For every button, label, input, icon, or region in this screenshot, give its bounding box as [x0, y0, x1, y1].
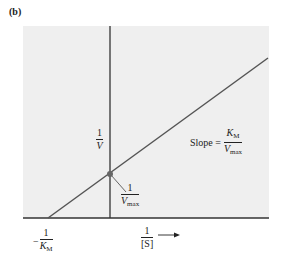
y-axis-label: 1 V [96, 128, 103, 151]
x-axis-label: 1 [S] [141, 226, 153, 249]
y-intercept-point [107, 171, 113, 177]
arrowhead-icon [174, 233, 180, 238]
y-intercept-label: 1 Vmax [121, 183, 139, 209]
slope-annotation: Slope = KM Vmax [190, 128, 242, 157]
x-intercept-label: − 1 KM [33, 228, 53, 254]
